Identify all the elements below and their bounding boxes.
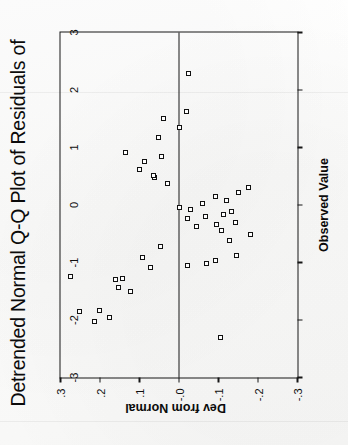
data-point [245, 185, 250, 190]
qq-plot-figure: Detrended Normal Q-Q Plot of Residuals o… [0, 0, 348, 445]
data-point [113, 277, 118, 282]
y-tick [59, 377, 61, 382]
data-point [226, 238, 231, 243]
data-point [76, 308, 81, 313]
data-point [147, 264, 152, 269]
data-point [203, 214, 208, 219]
data-point [157, 243, 162, 248]
y-axis-title: Dev from Normal [95, 400, 255, 414]
chart-title: Detrended Normal Q-Q Plot of Residuals o… [6, 0, 29, 445]
x-tick-label: -3 [67, 372, 79, 382]
data-point [247, 232, 252, 237]
x-tick [297, 319, 302, 321]
x-tick [297, 204, 302, 206]
data-point [213, 194, 218, 199]
data-point [233, 253, 238, 258]
y-tick-label: .3 [54, 388, 66, 397]
data-point [120, 276, 125, 281]
x-tick-label: 2 [67, 86, 79, 92]
plot-area [60, 32, 297, 377]
y-tick [257, 377, 259, 382]
data-point [188, 207, 193, 212]
data-point [137, 166, 142, 171]
data-point [185, 216, 190, 221]
y-tick-label: -.1 [212, 388, 224, 401]
x-tick-label: -1 [67, 257, 79, 267]
x-tick-label: 0 [67, 201, 79, 207]
data-point [158, 154, 163, 159]
data-point [116, 284, 121, 289]
data-point [223, 197, 228, 202]
data-point [91, 319, 96, 324]
x-tick [297, 89, 302, 91]
y-tick [178, 377, 180, 382]
data-point [229, 209, 234, 214]
y-tick-label: -.3 [291, 388, 303, 401]
data-point [185, 262, 190, 267]
data-point [204, 261, 209, 266]
x-tick [297, 146, 302, 148]
data-point [186, 71, 191, 76]
data-point [194, 223, 199, 228]
data-point [176, 124, 181, 129]
y-tick [217, 377, 219, 382]
data-point [213, 257, 218, 262]
data-point [107, 314, 112, 319]
y-tick-label: -.0 [173, 388, 185, 401]
y-tick [296, 377, 298, 382]
x-tick-label: 1 [67, 144, 79, 150]
data-point [139, 255, 144, 260]
data-point [220, 212, 225, 217]
data-point [67, 273, 72, 278]
x-tick-label: 3 [67, 29, 79, 35]
data-point [123, 149, 128, 154]
x-tick-label: -2 [67, 315, 79, 325]
data-point [219, 228, 224, 233]
x-tick [297, 261, 302, 263]
y-tick [138, 377, 140, 382]
data-point [214, 222, 219, 227]
data-point [142, 158, 147, 163]
y-tick-label: .2 [94, 388, 106, 397]
data-point [150, 172, 155, 177]
y-tick-label: -.2 [252, 388, 264, 401]
data-point [164, 180, 169, 185]
data-point [232, 219, 237, 224]
data-point [160, 116, 165, 121]
data-point [200, 201, 205, 206]
data-point [184, 109, 189, 114]
y-tick-label: .1 [133, 388, 145, 397]
plot-frame: -3-2-10123 -.3-.2-.1-.0.1.2.3 [59, 31, 298, 378]
x-axis-title: Observed Value [316, 31, 330, 378]
data-point [176, 205, 181, 210]
data-point [96, 308, 101, 313]
y-tick [99, 377, 101, 382]
data-point [155, 134, 160, 139]
data-point [217, 334, 222, 339]
data-point [128, 288, 133, 293]
data-point [235, 189, 240, 194]
x-tick [297, 31, 302, 33]
